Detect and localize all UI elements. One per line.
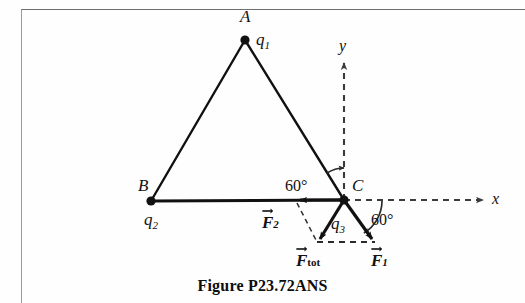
charge-dot-a	[240, 35, 249, 44]
figure-caption: Figure P23.72ANS	[0, 277, 525, 295]
vector-label-F1-F: F	[371, 251, 382, 270]
charge-dot-c	[339, 195, 348, 204]
vector-label-F2: F 2	[262, 214, 279, 231]
charge-dot-b	[146, 196, 155, 205]
charge-label-q2-base: q	[144, 210, 153, 229]
vertex-label-b: B	[138, 177, 148, 194]
vector-label-F1: F 1	[371, 252, 388, 269]
vector-arrow-hat-icon	[371, 245, 382, 252]
vector-label-Ftot-sub: tot	[307, 256, 320, 268]
vector-label-F2-sub: 2	[273, 218, 279, 230]
charge-label-q3-base: q	[331, 214, 340, 233]
vector-label-F2-F: F	[262, 213, 273, 232]
vector-arrow-hat-icon	[262, 207, 273, 214]
angle-label-lower: 60°	[371, 212, 393, 228]
vector-label-Ftot: F tot	[296, 252, 320, 269]
vector-arrow-hat-icon	[296, 245, 307, 252]
vertex-label-c: C	[352, 177, 363, 194]
figure-page: A q1 B q2 C q3 y x 60° 60° F 2 F tot	[0, 0, 525, 303]
vertex-label-a: A	[240, 8, 250, 25]
triangle-abc	[151, 40, 344, 201]
triangle-side-ac	[245, 40, 344, 200]
charge-label-q2: q2	[144, 211, 158, 231]
charge-label-q1-base: q	[256, 30, 265, 49]
charge-label-q3-sub: 3	[340, 223, 346, 235]
vector-label-F1-sub: 1	[382, 256, 388, 268]
angle-label-upper: 60°	[285, 178, 307, 194]
y-axis-label: y	[339, 38, 346, 54]
triangle-side-ab	[151, 40, 245, 201]
coordinate-axes	[344, 63, 483, 200]
charge-label-q3: q3	[331, 215, 345, 235]
x-axis-label: x	[492, 191, 499, 207]
vector-F1	[344, 200, 372, 239]
angle-arc-upper	[327, 168, 344, 173]
vector-label-Ftot-symbol-wrap: F	[296, 252, 307, 269]
vector-label-Ftot-F: F	[296, 251, 307, 270]
vector-label-F2-symbol-wrap: F	[262, 214, 273, 231]
charge-dots	[146, 35, 348, 205]
charge-label-q1: q1	[256, 31, 270, 51]
charge-label-q1-sub: 1	[265, 39, 271, 51]
vector-label-F1-symbol-wrap: F	[371, 252, 382, 269]
construction-line-f2-to-ftot	[297, 203, 317, 242]
charge-label-q2-sub: 2	[153, 219, 159, 231]
